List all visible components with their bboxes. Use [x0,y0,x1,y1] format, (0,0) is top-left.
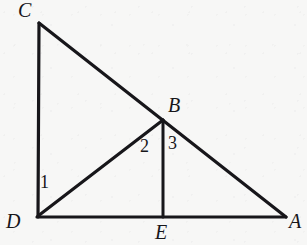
angle-label-3: 3 [168,134,177,152]
segment-group [37,23,286,217]
geometry-figure: C D A B E 1 2 3 [0,0,307,245]
geometry-canvas [0,0,307,245]
vertex-label-D: D [6,211,20,231]
segment-DB [38,120,163,216]
vertex-label-E: E [155,222,167,242]
vertex-label-C: C [18,0,31,20]
angle-label-1: 1 [40,173,49,191]
segment-CD [38,23,39,217]
vertex-label-A: A [289,211,301,231]
angle-label-2: 2 [140,137,149,155]
vertex-label-B: B [168,95,180,115]
